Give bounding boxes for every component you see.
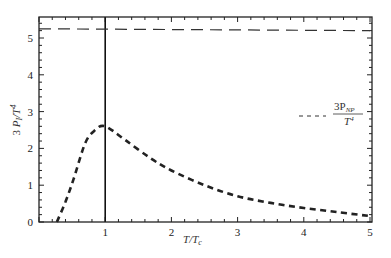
y-axis-label: 3 PI/T4 (9, 105, 24, 136)
series-pi-curve (57, 126, 370, 222)
y-tick-label: 0 (28, 216, 34, 228)
y-tick-label: 2 (28, 142, 34, 154)
legend-label-numerator: 3PNP (334, 100, 355, 114)
x-tick-label: 4 (301, 226, 307, 238)
svg-text:T/Tc: T/Tc (183, 233, 202, 247)
y-tick-label: 3 (28, 106, 34, 118)
x-tick-label: 1 (102, 226, 108, 238)
series-group (39, 17, 370, 222)
y-tick-label: 5 (28, 32, 34, 44)
plot-frame (39, 17, 372, 222)
x-tick-label: 3 (235, 226, 241, 238)
svg-text:3 PI/T4: 3 PI/T4 (9, 105, 24, 136)
legend: 3PNP T4 (299, 100, 363, 127)
y-tick-label: 4 (28, 69, 34, 81)
axis-ticks (39, 17, 372, 222)
series-pnp-line (39, 29, 370, 31)
chart: 12345012345 3 PI/T4 T/Tc 3PNP T4 (0, 0, 391, 258)
legend-label-denominator: T4 (344, 115, 354, 127)
y-tick-label: 1 (28, 179, 34, 191)
tick-labels: 12345012345 (28, 32, 374, 238)
x-tick-label: 5 (367, 226, 373, 238)
x-tick-label: 2 (169, 226, 175, 238)
x-axis-label: T/Tc (183, 233, 202, 247)
